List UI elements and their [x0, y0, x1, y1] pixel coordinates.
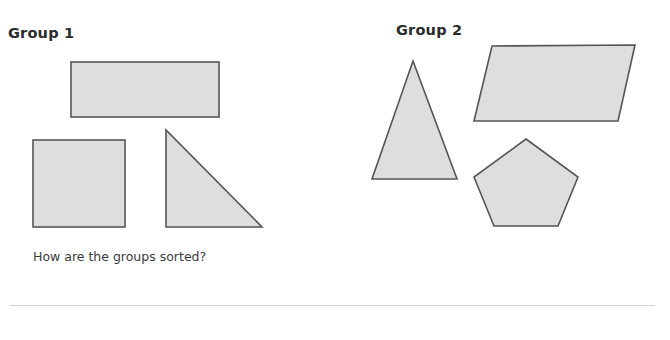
- shape-isosceles-triangle[interactable]: [372, 61, 457, 179]
- group-2-shape-set: [372, 45, 635, 226]
- footer-divider: [10, 305, 655, 306]
- group-1-shape-set: [33, 62, 262, 227]
- shape-pentagon[interactable]: [474, 139, 578, 226]
- worksheet-page: Group 1 Group 2 How are the groups sorte…: [0, 0, 670, 340]
- shape-right-triangle[interactable]: [166, 130, 262, 227]
- question-prompt: How are the groups sorted?: [33, 251, 206, 264]
- shape-rectangle[interactable]: [71, 62, 219, 117]
- shape-parallelogram[interactable]: [474, 45, 635, 121]
- group-1-heading: Group 1: [8, 26, 74, 41]
- group-2-heading: Group 2: [396, 23, 462, 38]
- shape-square[interactable]: [33, 140, 125, 227]
- shape-canvas: [0, 0, 670, 340]
